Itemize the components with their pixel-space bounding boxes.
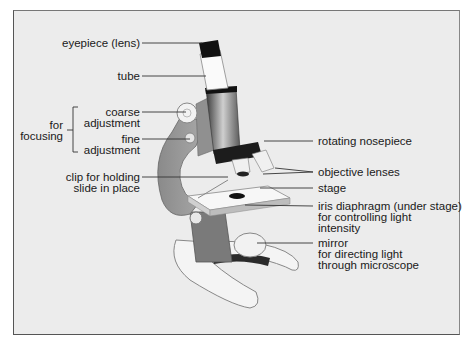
label-eyepiece: eyepiece (lens) — [40, 38, 140, 49]
label-nosepiece: rotating nosepiece — [318, 136, 412, 147]
label-focusing-2: focusing — [10, 131, 63, 142]
label-fine-2: adjustment — [40, 145, 140, 156]
label-objective: objective lenses — [318, 167, 400, 178]
mirror-icon — [234, 233, 266, 257]
objective-lens-icon — [252, 150, 274, 172]
label-tube: tube — [40, 71, 140, 82]
eyepiece-icon — [199, 40, 221, 58]
label-mirror-3: through microscope — [318, 260, 419, 271]
label-clip-2: slide in place — [30, 183, 140, 194]
objective-lens-icon — [232, 158, 250, 174]
label-iris-3: intensity — [318, 223, 360, 234]
fine-knob-icon — [185, 133, 195, 143]
coarse-knob-icon — [177, 103, 197, 123]
label-stage: stage — [318, 183, 346, 194]
